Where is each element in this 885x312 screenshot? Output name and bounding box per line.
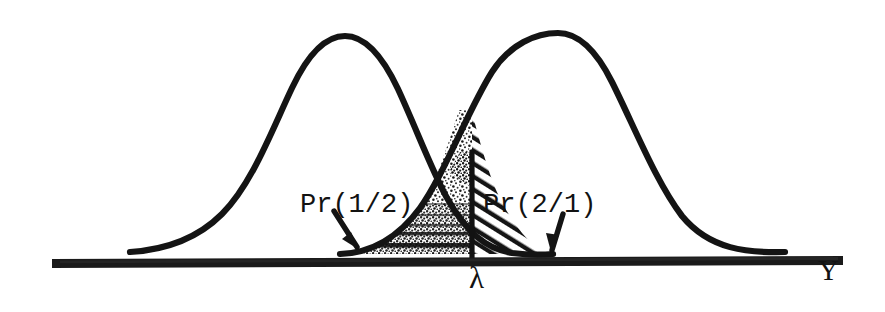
axis-baseline: [52, 256, 843, 268]
axis-y-label: Y: [818, 256, 839, 285]
probability-density-figure: Pr(1/2) Pr(2/1) λ Y: [0, 0, 885, 312]
threshold-lambda-label: λ: [469, 262, 484, 293]
pr21-label: Pr(2/1): [483, 192, 596, 219]
pr12-label: Pr(1/2): [300, 192, 413, 219]
figure-canvas: [0, 0, 885, 312]
